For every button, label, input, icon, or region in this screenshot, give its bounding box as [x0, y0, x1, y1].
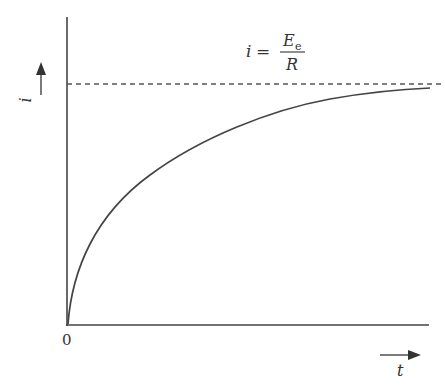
- x-axis-indicator: t: [380, 350, 421, 380]
- formula-denominator: R: [285, 55, 298, 74]
- current-curve: [68, 88, 430, 324]
- diagram-canvas: 0 i t i = E e R: [0, 0, 445, 392]
- asymptote-formula: i = E e R: [246, 31, 305, 74]
- origin-label: 0: [62, 331, 72, 349]
- formula-equals: =: [256, 41, 270, 61]
- arrow-up-icon: [36, 62, 46, 75]
- formula-lhs: i: [246, 41, 251, 61]
- y-axis-indicator: i: [16, 62, 46, 103]
- arrow-right-icon: [408, 350, 421, 360]
- formula-numerator: E: [282, 31, 295, 50]
- y-axis-label: i: [16, 97, 35, 102]
- formula-numerator-subscript: e: [295, 40, 302, 53]
- x-axis-label: t: [397, 361, 404, 380]
